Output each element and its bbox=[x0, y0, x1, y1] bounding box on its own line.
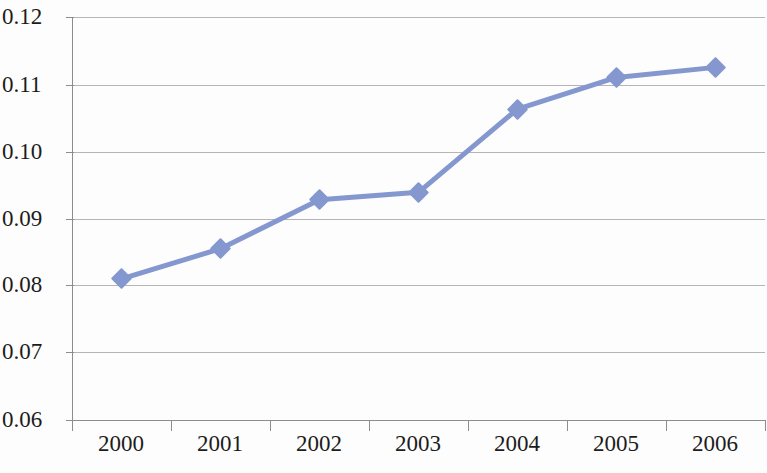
x-tick-6 bbox=[666, 420, 667, 431]
y-axis-label-0-12: 0.12 bbox=[2, 5, 64, 28]
y-axis-label-0-06: 0.06 bbox=[2, 408, 64, 431]
data-point-2003 bbox=[408, 182, 429, 203]
y-axis-label-0-08: 0.08 bbox=[2, 273, 64, 296]
x-tick-2 bbox=[270, 420, 271, 431]
x-axis-label-2000: 2000 bbox=[71, 432, 171, 455]
gridline-0-10 bbox=[72, 152, 765, 153]
data-point-2006 bbox=[705, 57, 726, 78]
x-axis-label-2005: 2005 bbox=[566, 432, 666, 455]
y-tick-0-12 bbox=[66, 17, 74, 18]
y-tick-0-08 bbox=[66, 285, 74, 286]
x-axis-label-2003: 2003 bbox=[368, 432, 468, 455]
x-tick-7 bbox=[765, 420, 766, 431]
y-tick-0-07 bbox=[66, 352, 74, 353]
x-tick-4 bbox=[468, 420, 469, 431]
gridline-0-09 bbox=[72, 219, 765, 220]
x-tick-5 bbox=[567, 420, 568, 431]
x-axis-label-2006: 2006 bbox=[665, 432, 765, 455]
x-axis-label-2001: 2001 bbox=[170, 432, 270, 455]
data-point-2004 bbox=[507, 98, 528, 119]
gridline-0-07 bbox=[72, 352, 765, 353]
data-point-2001 bbox=[210, 238, 231, 259]
gridline-0-08 bbox=[72, 285, 765, 286]
y-axis-label-0-10: 0.10 bbox=[2, 140, 64, 163]
data-point-2002 bbox=[309, 189, 330, 210]
y-tick-0-11 bbox=[66, 85, 74, 86]
series-line bbox=[0, 0, 767, 473]
x-axis-label-2004: 2004 bbox=[467, 432, 567, 455]
y-axis-label-0-09: 0.09 bbox=[2, 207, 64, 230]
y-axis-label-0-11: 0.11 bbox=[2, 73, 64, 96]
x-tick-1 bbox=[171, 420, 172, 431]
data-point-2000 bbox=[111, 268, 132, 289]
line-chart: 0.12 0.11 0.10 0.09 0.08 0.07 0.06 2000 … bbox=[0, 0, 767, 473]
y-tick-0-09 bbox=[66, 219, 74, 220]
x-tick-0 bbox=[72, 420, 73, 431]
y-tick-0-10 bbox=[66, 152, 74, 153]
y-axis-label-0-07: 0.07 bbox=[2, 340, 64, 363]
gridline-0-12 bbox=[72, 17, 765, 18]
x-axis-line bbox=[72, 420, 765, 421]
gridline-0-11 bbox=[72, 85, 765, 86]
x-tick-3 bbox=[369, 420, 370, 431]
x-axis-label-2002: 2002 bbox=[269, 432, 369, 455]
